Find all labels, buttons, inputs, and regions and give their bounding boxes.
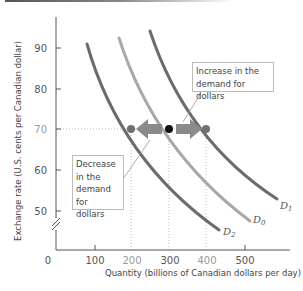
demand-shift-chart: 90 80 70 60 50 0 100 200 300 400 500 Qua…: [0, 0, 303, 291]
origin-label: 0: [45, 255, 51, 266]
increase-callout: Increase in the demand for dollars: [192, 62, 274, 92]
increase-arrow-right-icon: [176, 119, 202, 139]
x-tick-label-300: 300: [160, 255, 179, 266]
y-tick-label-90: 90: [34, 43, 47, 54]
label-d0: D0: [252, 214, 266, 227]
x-tick-label-400: 400: [197, 255, 216, 266]
x-tick-label-200: 200: [122, 255, 141, 266]
point-d1-400-70: [202, 125, 210, 133]
y-tick-label-50: 50: [34, 206, 47, 217]
decrease-callout-line2: in the: [76, 171, 120, 184]
label-d2: D2: [222, 226, 236, 239]
decrease-callout-line3: demand for: [76, 183, 120, 208]
axis-break-mark-2: [52, 222, 60, 230]
increase-callout-line1: Increase in the: [196, 65, 270, 78]
decrease-callout-line4: dollars: [76, 208, 120, 221]
decrease-callout: Decrease in the demand for dollars: [72, 155, 124, 210]
point-d0-300-70: [165, 125, 173, 133]
x-tick-label-500: 500: [235, 255, 254, 266]
x-axis-title: Quantity (billions of Canadian dollars p…: [105, 268, 301, 278]
y-tick-label-70: 70: [34, 124, 47, 135]
point-d2-200-70: [127, 125, 135, 133]
y-tick-label-80: 80: [34, 84, 47, 95]
axis-break-mark-1: [52, 218, 60, 226]
label-d1: D1: [279, 200, 293, 213]
y-tick-label-60: 60: [34, 165, 47, 176]
increase-callout-line2: demand for dollars: [196, 78, 270, 103]
decrease-callout-line1: Decrease: [76, 158, 120, 171]
x-tick-label-100: 100: [85, 255, 104, 266]
y-axis-title: Exchange rate (U.S. cents per Canadian d…: [13, 41, 23, 241]
demand-curve-d1: [150, 31, 277, 199]
